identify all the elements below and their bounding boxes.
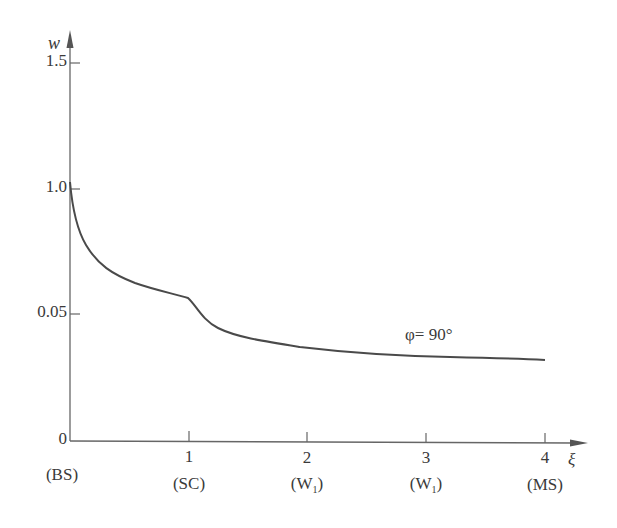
y-tick-label-1-5: 1.5 (7, 51, 67, 71)
x-tick-label-3: 3 (396, 448, 456, 468)
x-sublabel-bs: (BS) (32, 465, 92, 485)
curve-phi-90 (70, 182, 545, 360)
x-sublabel-w1-b: (W1) (396, 474, 456, 495)
y-tick-label-0-05: 0.05 (7, 302, 67, 322)
x-tick-label-2: 2 (277, 448, 337, 468)
x-axis (70, 441, 575, 443)
y-tick-label-1-0: 1.0 (7, 177, 67, 197)
x-axis-label: ξ (568, 450, 575, 470)
y-tick-label-0: 0 (7, 429, 67, 449)
x-axis-arrow-icon (570, 440, 588, 447)
curve-label: φ= 90° (405, 325, 452, 345)
y-axis-arrow-icon (67, 30, 74, 48)
x-tick-label-4: 4 (515, 448, 575, 468)
x-sublabel-w1-a: (W1) (277, 474, 337, 495)
x-sublabel-sc: (SC) (159, 474, 219, 494)
x-tick-label-1: 1 (159, 447, 219, 467)
x-sublabel-ms: (MS) (515, 475, 575, 495)
